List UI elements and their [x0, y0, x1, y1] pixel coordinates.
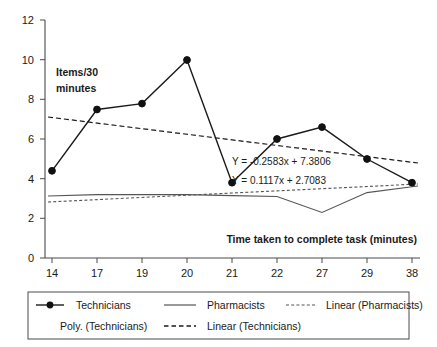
legend-label-technicians: Technicians [76, 299, 131, 311]
x-tick-label-6: 27 [316, 267, 328, 279]
legend-marker-dot-icon [47, 302, 54, 309]
x-tick-label-0: 14 [46, 267, 58, 279]
y-tick-label-12: 12 [22, 14, 34, 26]
x-tick-label-2: 19 [136, 267, 148, 279]
legend-label-linear-pharmacists: Linear (Pharmacists) [326, 299, 423, 311]
equation-pharmacists-linear: Y = 0.1117x + 2.7083 [232, 175, 326, 186]
y-tick-marks [40, 20, 45, 258]
y-tick-label-8: 8 [28, 93, 34, 105]
y-tick-label-10: 10 [22, 54, 34, 66]
x-tick-label-7: 29 [361, 267, 373, 279]
x-tick-marks [52, 258, 412, 263]
y-axis-title-line2: minutes [56, 82, 96, 94]
equation-technicians-linear: Y = -0.2583x + 7.3806 [232, 156, 331, 167]
legend-item-linear-technicians[interactable]: Linear (Technicians) [164, 320, 301, 332]
legend-item-pharmacists[interactable]: Pharmacists [164, 299, 265, 311]
legend-item-linear-pharmacists[interactable]: Linear (Pharmacists) [286, 299, 423, 311]
y-tick-label-0: 0 [28, 252, 34, 264]
y-tick-label-4: 4 [28, 173, 34, 185]
y-axis-title-line1: Items/30 [56, 66, 98, 78]
legend-label-linear-technicians: Linear (Technicians) [207, 320, 301, 332]
legend-label-poly-technicians: Poly. (Technicians) [60, 320, 147, 332]
x-axis-title: Time taken to complete task (minutes) [226, 233, 417, 245]
chart-container: 12 10 8 6 4 2 0 14 17 19 20 21 22 27 29 … [0, 0, 437, 347]
x-tick-label-1: 17 [91, 267, 103, 279]
legend-item-technicians[interactable]: Technicians [36, 299, 131, 311]
x-tick-label-3: 20 [181, 267, 193, 279]
series-line-pharmacists [48, 186, 418, 213]
x-tick-label-8: 38 [406, 267, 418, 279]
y-tick-label-6: 6 [28, 133, 34, 145]
legend-label-pharmacists: Pharmacists [207, 299, 265, 311]
trendline-pharmacists [48, 184, 418, 202]
legend-item-poly-technicians[interactable]: Poly. (Technicians) [60, 320, 147, 332]
line-chart: 12 10 8 6 4 2 0 14 17 19 20 21 22 27 29 … [0, 0, 437, 347]
x-tick-label-4: 21 [226, 267, 238, 279]
y-tick-label-2: 2 [28, 212, 34, 224]
x-tick-label-5: 22 [271, 267, 283, 279]
